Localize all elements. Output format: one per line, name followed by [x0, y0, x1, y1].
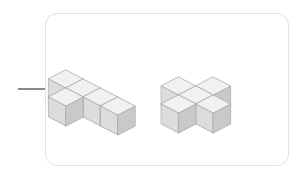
rounded-panel	[45, 13, 289, 166]
connector-line	[18, 88, 46, 90]
screenshot-stage	[0, 0, 304, 177]
